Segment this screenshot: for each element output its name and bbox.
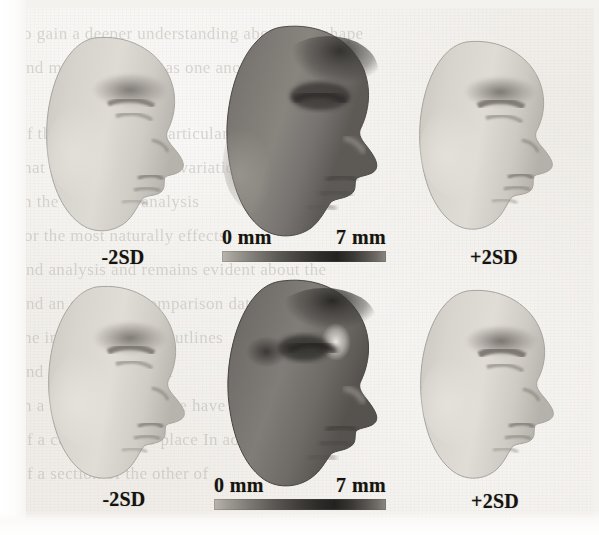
sd-label-minus-2sd: -2SD bbox=[34, 246, 212, 269]
face-render-plus2sd-row2 bbox=[410, 286, 580, 490]
sd-label-plus-2sd: +2SD bbox=[410, 490, 580, 513]
colorbar-row2: 0 mm 7 mm bbox=[214, 474, 386, 510]
face-panel-row2-right: +2SD bbox=[410, 286, 580, 490]
colorbar-gradient-row2 bbox=[214, 499, 386, 510]
colorbar-tick-labels-row2: 0 mm 7 mm bbox=[214, 474, 386, 496]
colorbar-tick-labels-row1: 0 mm 7 mm bbox=[222, 226, 386, 248]
page-bottom-margin bbox=[0, 511, 599, 535]
face-render-deviation-map-row2 bbox=[218, 276, 404, 494]
face-render-minus2sd-row2 bbox=[36, 282, 212, 490]
face-panel-row2-left: -2SD bbox=[36, 282, 212, 490]
face-panel-row2-center bbox=[218, 276, 404, 494]
page-left-margin bbox=[0, 0, 26, 535]
colorbar-max-label: 7 mm bbox=[336, 226, 386, 249]
face-panel-row1-left: -2SD bbox=[34, 32, 212, 244]
colorbar-min-label: 0 mm bbox=[214, 474, 264, 497]
figure-page: to gain a deeper understanding about how… bbox=[0, 0, 599, 535]
colorbar-max-label: 7 mm bbox=[336, 474, 386, 497]
face-panel-row1-right: +2SD bbox=[408, 36, 580, 242]
sd-label-plus-2sd: +2SD bbox=[408, 246, 580, 269]
face-render-deviation-map-row1 bbox=[216, 22, 404, 244]
face-render-minus2sd-row1 bbox=[34, 32, 212, 244]
colorbar-gradient-row1 bbox=[222, 251, 386, 262]
face-panel-grid: -2SD bbox=[26, 14, 594, 514]
face-render-plus2sd-row1 bbox=[408, 36, 580, 242]
colorbar-min-label: 0 mm bbox=[222, 226, 272, 249]
sd-label-minus-2sd: -2SD bbox=[36, 488, 212, 511]
colorbar-row1: 0 mm 7 mm bbox=[222, 226, 386, 262]
face-panel-row1-center bbox=[216, 22, 404, 244]
